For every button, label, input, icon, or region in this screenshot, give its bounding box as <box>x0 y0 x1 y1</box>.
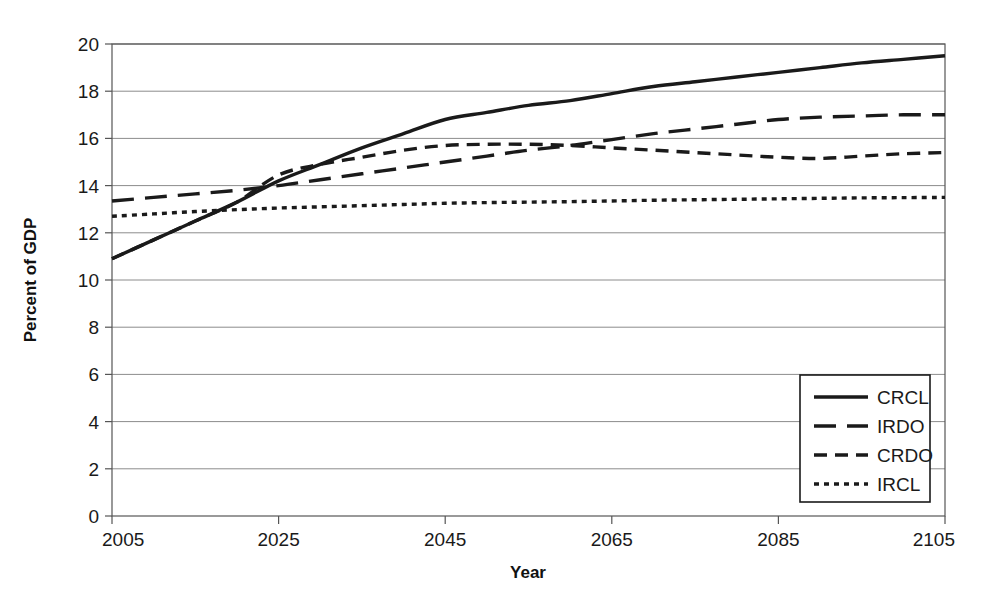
x-tick-label: 2085 <box>757 529 799 550</box>
y-axis-title: Percent of GDP <box>21 218 40 343</box>
y-tick-label: 14 <box>78 176 100 197</box>
y-tick-label: 20 <box>78 34 99 55</box>
y-tick-label: 8 <box>88 317 99 338</box>
x-tick-label: 2065 <box>591 529 633 550</box>
y-tick-label: 10 <box>78 270 99 291</box>
y-tick-label: 0 <box>88 506 99 527</box>
chart-background <box>0 0 1004 613</box>
y-tick-label: 2 <box>88 459 99 480</box>
chart-legend: CRCLIRDOCRDOIRCL <box>800 375 933 502</box>
legend-label-crdo: CRDO <box>877 445 933 466</box>
x-tick-label: 2045 <box>424 529 466 550</box>
chart-figure: 20181614121086420 2005202520452065208521… <box>0 0 1004 613</box>
x-axis-title: Year <box>510 563 546 582</box>
y-tick-label: 16 <box>78 128 99 149</box>
y-tick-label: 4 <box>88 412 99 433</box>
x-tick-label: 2005 <box>102 529 144 550</box>
y-tick-label: 18 <box>78 81 99 102</box>
chart-canvas: 20181614121086420 2005202520452065208521… <box>0 0 1004 613</box>
x-tick-label: 2025 <box>257 529 299 550</box>
legend-label-ircl: IRCL <box>877 474 920 495</box>
y-tick-label: 12 <box>78 223 99 244</box>
y-tick-label: 6 <box>88 364 99 385</box>
legend-label-crcl: CRCL <box>877 387 929 408</box>
legend-label-irdo: IRDO <box>877 416 925 437</box>
x-tick-label: 2105 <box>913 529 955 550</box>
